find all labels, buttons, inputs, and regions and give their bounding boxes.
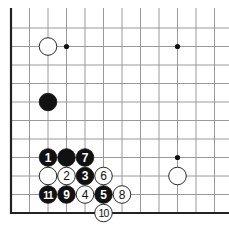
move-number-label: 1 [45,151,52,165]
move-number-label: 4 [82,188,89,202]
move-number-label: 5 [100,188,107,202]
move-number-label: 2 [63,169,70,183]
move-number-label: 11 [43,189,53,201]
black-stone [58,149,76,167]
black-stone [39,93,57,111]
star-point-icon [175,155,180,160]
move-number-label: 10 [98,207,109,219]
move-number-label: 7 [82,151,89,165]
move-number-label: 9 [63,188,70,202]
star-point-icon [175,44,180,49]
move-number-label: 3 [82,169,89,183]
move-number-label: 6 [100,169,107,183]
go-board-diagram: 1723611945810 [0,0,229,233]
white-stone [39,167,57,185]
move-number-label: 8 [119,188,126,202]
white-stone [39,38,57,56]
white-stone [169,167,187,185]
star-point-icon [64,44,69,49]
